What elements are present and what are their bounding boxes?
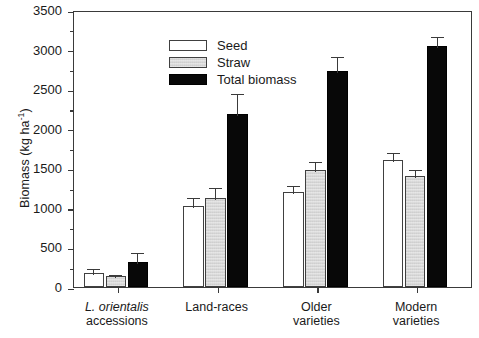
y-tick-mark-minor <box>70 229 74 230</box>
x-axis-label-line: Modern <box>346 301 479 315</box>
y-axis-title-tail: ) <box>18 108 32 112</box>
error-bar-stem <box>137 253 138 263</box>
bar-seed-group-1 <box>84 273 105 287</box>
error-bar-stem <box>393 153 394 162</box>
error-bar-total-group-3 <box>327 57 348 73</box>
error-bar-cap <box>231 94 244 95</box>
y-tick-label: 1500 <box>0 161 62 176</box>
error-bar-straw-group-2 <box>205 188 226 201</box>
error-bar-stem <box>437 37 438 48</box>
bar-seed-group-4 <box>383 160 404 287</box>
y-tick-mark <box>68 289 74 290</box>
error-bar-stem <box>315 162 316 172</box>
y-tick-mark <box>68 130 74 131</box>
error-bar-cap <box>131 253 144 254</box>
y-tick-label: 1000 <box>0 201 62 216</box>
bar-total-group-3 <box>327 71 348 287</box>
y-tick-mark-minor <box>70 269 74 270</box>
y-tick-mark-minor <box>70 71 74 72</box>
error-bar-seed-group-4 <box>383 153 404 162</box>
legend-label-seed: Seed <box>217 38 247 53</box>
y-tick-mark <box>68 91 74 92</box>
y-tick-label: 2500 <box>0 82 62 97</box>
error-bar-cap <box>331 57 344 58</box>
x-axis-label-line: varieties <box>346 315 479 329</box>
y-tick-mark-minor <box>70 150 74 151</box>
y-tick-mark-minor <box>70 110 74 111</box>
error-bar-stem <box>415 170 416 178</box>
legend: Seed Straw Total biomass <box>169 38 296 89</box>
y-tick-mark <box>68 12 74 13</box>
error-bar-cap <box>309 162 322 163</box>
bar-straw-group-2 <box>205 198 226 287</box>
bar-straw-group-4 <box>405 176 426 287</box>
error-bar-seed-group-3 <box>283 186 304 194</box>
y-tick-mark <box>68 170 74 171</box>
error-bar-cap <box>87 269 100 270</box>
error-bar-seed-group-2 <box>183 198 204 208</box>
error-bar-straw-group-4 <box>405 170 426 178</box>
error-bar-stem <box>293 186 294 194</box>
legend-item-seed: Seed <box>169 38 296 52</box>
bar-seed-group-3 <box>283 192 304 287</box>
y-tick-mark-minor <box>70 190 74 191</box>
error-bar-total-group-2 <box>227 94 248 116</box>
x-tick-group-1 <box>118 287 119 293</box>
error-bar-cap <box>287 186 300 187</box>
y-tick-mark <box>68 249 74 250</box>
error-bar-total-group-1 <box>128 253 149 263</box>
error-bar-stem <box>237 94 238 116</box>
biomass-bar-chart: Biomass (kg ha-1) 0500100015002000250030… <box>0 0 479 338</box>
error-bar-straw-group-3 <box>305 162 326 172</box>
error-bar-straw-group-1 <box>106 275 127 278</box>
legend-swatch-seed-icon <box>169 40 207 51</box>
legend-item-straw: Straw <box>169 55 296 69</box>
legend-swatch-straw-icon <box>169 57 207 68</box>
y-tick-mark <box>68 51 74 52</box>
bar-straw-group-3 <box>305 170 326 287</box>
legend-swatch-total-biomass-icon <box>169 74 207 85</box>
error-bar-cap <box>409 170 422 171</box>
y-axis-title: Biomass (kg ha-1) <box>16 48 32 268</box>
error-bar-cap <box>187 198 200 199</box>
plot-area: 0500100015002000250030003500 Seed Straw … <box>73 11 472 288</box>
error-bar-stem <box>215 188 216 201</box>
x-axis-label-line: accessions <box>47 315 187 329</box>
y-tick-label: 500 <box>0 240 62 255</box>
legend-label-total-biomass: Total biomass <box>217 72 296 87</box>
error-bar-seed-group-1 <box>84 269 105 275</box>
y-tick-label: 0 <box>0 280 62 295</box>
x-axis-label-group-4: Modernvarieties <box>346 301 479 328</box>
error-bar-stem <box>193 198 194 208</box>
x-tick-group-2 <box>218 287 219 293</box>
x-tick-group-4 <box>417 287 418 293</box>
x-tick-group-3 <box>317 287 318 293</box>
bar-total-group-1 <box>128 262 149 287</box>
y-tick-label: 3500 <box>0 3 62 18</box>
legend-item-total-biomass: Total biomass <box>169 72 296 86</box>
bar-seed-group-2 <box>183 206 204 287</box>
error-bar-stem <box>337 57 338 73</box>
y-tick-label: 2000 <box>0 122 62 137</box>
y-tick-label: 3000 <box>0 43 62 58</box>
y-tick-mark <box>68 209 74 210</box>
bar-total-group-2 <box>227 114 248 287</box>
error-bar-total-group-4 <box>427 37 448 48</box>
bar-total-group-4 <box>427 46 448 287</box>
error-bar-cap <box>387 153 400 154</box>
error-bar-cap <box>109 275 122 276</box>
error-bar-cap <box>209 188 222 189</box>
legend-label-straw: Straw <box>217 55 250 70</box>
y-tick-mark-minor <box>70 31 74 32</box>
y-axis-title-superscript: -1 <box>16 113 26 121</box>
error-bar-cap <box>431 37 444 38</box>
